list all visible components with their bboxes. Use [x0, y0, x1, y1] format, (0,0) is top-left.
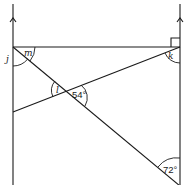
angle-arc-j — [13, 59, 28, 66]
rising-transversal — [13, 47, 180, 112]
geometry-diagram: j m k l 54° 72° — [0, 0, 185, 185]
angle-arc-l — [52, 81, 55, 97]
right-angle-marker-icon — [171, 38, 180, 47]
angle-label-l: l — [56, 85, 59, 95]
angle-label-m: m — [24, 48, 33, 58]
angle-label-54: 54° — [72, 89, 87, 100]
angle-label-j: j — [4, 54, 9, 64]
angle-label-k: k — [168, 51, 173, 61]
angle-label-72: 72° — [163, 164, 178, 175]
diagonal-transversal — [13, 47, 180, 185]
